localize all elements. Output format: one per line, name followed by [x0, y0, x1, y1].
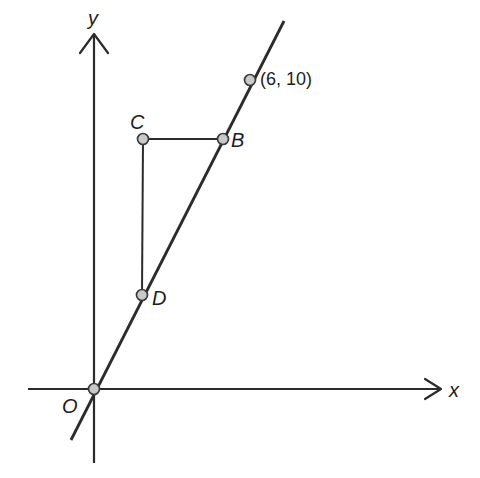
point-label-B: B [231, 130, 244, 150]
point-label-C: C [130, 112, 144, 132]
point-label-D: D [152, 288, 166, 308]
y-axis-label: y [88, 8, 98, 28]
point-marker-C [138, 134, 149, 145]
x-axis-label: x [449, 380, 459, 400]
point-marker-B [218, 134, 229, 145]
point-marker-6-10 [245, 75, 256, 86]
point-marker-D [137, 290, 148, 301]
point-label-O: O [62, 396, 78, 416]
coordinate-label-6-10: (6, 10) [260, 70, 312, 88]
geometry-figure: y x O D C B (6, 10) [0, 0, 480, 478]
point-marker-O [89, 384, 100, 395]
segment-CD [142, 139, 143, 295]
